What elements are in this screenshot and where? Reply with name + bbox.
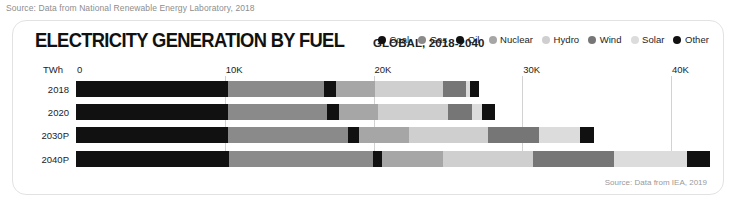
bar-segment-coal[interactable] (76, 81, 228, 97)
chart-card: ELECTRICITY GENERATION BY FUEL GLOBAL, 2… (12, 20, 724, 195)
bar-segment-coal[interactable] (76, 127, 228, 143)
bar-segment-other[interactable] (687, 151, 710, 167)
bar-segment-solar[interactable] (539, 127, 581, 143)
bar-segment-nuclear[interactable] (382, 151, 443, 167)
bar-segment-nuclear[interactable] (339, 104, 378, 120)
bar-segment-oil[interactable] (373, 151, 382, 167)
bar-segment-nuclear[interactable] (336, 81, 375, 97)
bar-segment-coal[interactable] (76, 104, 228, 120)
row-label-2040p: 2040P (21, 154, 69, 165)
bar-row-2030p (76, 127, 594, 143)
bar-row-2018 (76, 81, 479, 97)
bar-segment-oil[interactable] (348, 127, 358, 143)
bar-segment-gas[interactable] (228, 81, 325, 97)
bar-row-2020 (76, 104, 495, 120)
bar-segment-other[interactable] (470, 81, 479, 97)
row-label-2018: 2018 (21, 84, 69, 95)
bar-segment-other[interactable] (482, 104, 495, 120)
bar-segment-wind[interactable] (533, 151, 615, 167)
bar-segment-gas[interactable] (229, 151, 373, 167)
row-label-2020: 2020 (21, 107, 69, 118)
x-axis-tick-label: 40K (672, 64, 689, 75)
bar-segment-nuclear[interactable] (359, 127, 410, 143)
bar-segment-hydro[interactable] (443, 151, 532, 167)
bar-segment-wind[interactable] (488, 127, 539, 143)
bar-segment-oil[interactable] (324, 81, 336, 97)
bar-segment-wind[interactable] (448, 104, 472, 120)
bar-row-2040p (76, 151, 710, 167)
chart-plot-area: TWh010K20K30K40K201820202030P2040P (13, 21, 723, 194)
bar-segment-solar[interactable] (614, 151, 687, 167)
bar-segment-gas[interactable] (228, 104, 328, 120)
top-source-caption: Source: Data from National Renewable Ene… (6, 3, 255, 13)
bar-segment-hydro[interactable] (375, 81, 443, 97)
x-axis-tick-label: 0 (77, 64, 82, 75)
x-axis-tick-label: 10K (226, 64, 243, 75)
bar-segment-solar[interactable] (472, 104, 482, 120)
bar-segment-hydro[interactable] (378, 104, 448, 120)
bar-segment-other[interactable] (580, 127, 594, 143)
row-label-2030p: 2030P (21, 130, 69, 141)
bar-segment-gas[interactable] (228, 127, 348, 143)
bar-segment-hydro[interactable] (409, 127, 488, 143)
x-axis-tick-label: 30K (523, 64, 540, 75)
bar-segment-coal[interactable] (76, 151, 229, 167)
x-axis-tick-label: 20K (375, 64, 392, 75)
bar-segment-wind[interactable] (443, 81, 465, 97)
footer-source-caption: Source: Data from IEA, 2019 (605, 178, 707, 187)
bar-segment-oil[interactable] (327, 104, 339, 120)
chart-page: Source: Data from National Renewable Ene… (0, 0, 734, 203)
axis-unit-label: TWh (43, 64, 63, 75)
